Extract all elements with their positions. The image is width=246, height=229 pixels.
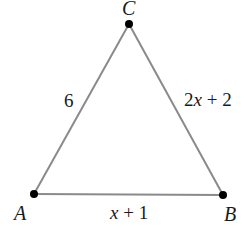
vertex-label-c: C	[122, 0, 136, 19]
triangle-diagram: C A B 6 2x + 2 x + 1	[0, 0, 246, 229]
side-label-cb-coef: 2	[184, 89, 194, 110]
side-label-ab: x + 1	[109, 202, 148, 223]
side-label-cb-rest: + 2	[202, 89, 232, 110]
vertex-label-b: B	[224, 203, 236, 225]
edge-ac	[34, 24, 129, 194]
triangle-svg: C A B 6 2x + 2 x + 1	[0, 0, 246, 229]
side-label-cb: 2x + 2	[184, 89, 232, 110]
edge-ab	[34, 194, 223, 195]
vertex-point-c	[125, 20, 133, 28]
vertex-point-a	[30, 190, 38, 198]
side-label-ac: 6	[64, 90, 74, 111]
side-label-ab-rest: + 1	[118, 202, 148, 223]
vertex-point-b	[219, 191, 227, 199]
vertex-label-a: A	[12, 202, 27, 224]
